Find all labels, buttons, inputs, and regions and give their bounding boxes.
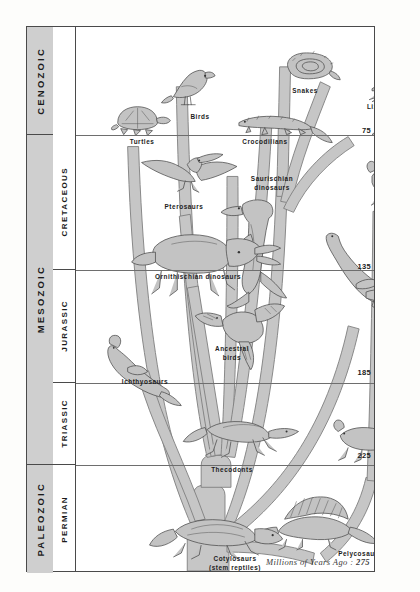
turtle-icon — [112, 107, 171, 136]
period-label-triassic: TRIASSIC — [60, 399, 69, 448]
period-label-cretaceous: CRETACEOUS — [60, 167, 69, 236]
thecodont-icon — [183, 422, 298, 458]
mammal-icon — [367, 159, 374, 213]
divider-jurassic-triassic — [76, 383, 374, 384]
era-band-paleozoic: PALEOZOIC — [27, 465, 53, 573]
ichthyosaur-icon — [108, 335, 182, 405]
taxon-label-turtles: Turtles — [130, 137, 155, 146]
era-column: CENOZOIC MESOZOIC PALEOZOIC — [27, 27, 53, 571]
era-band-mesozoic: MESOZOIC — [27, 135, 53, 465]
taxon-label-line-1: Ancestral — [215, 345, 249, 352]
era-band-cenozoic: CENOZOIC — [27, 27, 53, 135]
bird-icon — [161, 70, 215, 104]
period-label-permian: PERMIAN — [60, 496, 69, 543]
era-label-paleozoic: PALEOZOIC — [35, 482, 46, 557]
taxon-label-cotylosaurs: Cotylosaurs (stem reptiles) — [209, 554, 261, 571]
plot-area: 75 135 185 225 Turtles Birds Crocodilian… — [76, 27, 374, 571]
taxon-label-thecodonts: Thecodonts — [211, 465, 253, 474]
era-label-mesozoic: MESOZOIC — [35, 265, 46, 333]
chart-frame: CENOZOIC MESOZOIC PALEOZOIC CRETACEOUS J… — [26, 26, 375, 572]
caption-value: 275 — [356, 557, 370, 567]
taxon-label-line-1: Saurischian — [251, 175, 293, 182]
age-marker-75: 75 — [362, 126, 371, 135]
period-band-permian: PERMIAN — [53, 465, 76, 573]
snake-icon — [288, 51, 341, 80]
divider-cenozoic-mesozoic — [76, 135, 374, 136]
evolutionary-tree-figure: CENOZOIC MESOZOIC PALEOZOIC CRETACEOUS J… — [0, 0, 420, 592]
period-band-triassic: TRIASSIC — [53, 383, 76, 465]
lizard-icon — [369, 82, 374, 103]
divider-cretaceous-jurassic — [76, 270, 374, 271]
taxon-label-ichthyosaurs: Ichthyosaurs — [122, 377, 168, 386]
taxon-label-line-1: Cotylosaurs — [214, 555, 257, 562]
taxon-label-line-2: birds — [223, 354, 241, 361]
period-band-blank — [53, 27, 76, 135]
animal-illustrations — [76, 27, 374, 571]
taxon-label-lizards: Lizards — [367, 102, 374, 111]
caption-text: Millions of Years Ago : — [266, 557, 354, 567]
pterosaur-icon — [142, 154, 237, 193]
period-band-jurassic: JURASSIC — [53, 270, 76, 383]
taxon-label-ancestral-birds: Ancestral birds — [215, 344, 249, 363]
taxon-label-pterosaurs: Pterosaurs — [165, 202, 204, 211]
period-label-jurassic: JURASSIC — [60, 300, 69, 352]
taxon-label-line-2: dinosaurs — [254, 184, 290, 191]
age-marker-225: 225 — [358, 451, 371, 460]
plesiosaur-icon — [326, 233, 374, 314]
period-band-cretaceous: CRETACEOUS — [53, 135, 76, 270]
taxon-label-saurischian-dinosaurs: Saurischian dinosaurs — [251, 174, 293, 193]
period-column: CRETACEOUS JURASSIC TRIASSIC PERMIAN — [53, 27, 76, 571]
age-marker-185: 185 — [358, 368, 371, 377]
taxon-label-snakes: Snakes — [292, 86, 318, 95]
era-label-cenozoic: CENOZOIC — [35, 47, 46, 115]
taxon-label-line-2: (stem reptiles) — [209, 564, 261, 571]
taxon-label-birds: Birds — [190, 112, 209, 121]
age-marker-135: 135 — [358, 262, 371, 271]
figure-caption: Millions of Years Ago : 275 — [266, 557, 370, 567]
taxon-label-ornithischian-dinosaurs: Ornithischian dinosaurs — [155, 272, 241, 281]
taxon-label-crocodilians: Crocodilians — [242, 137, 287, 146]
